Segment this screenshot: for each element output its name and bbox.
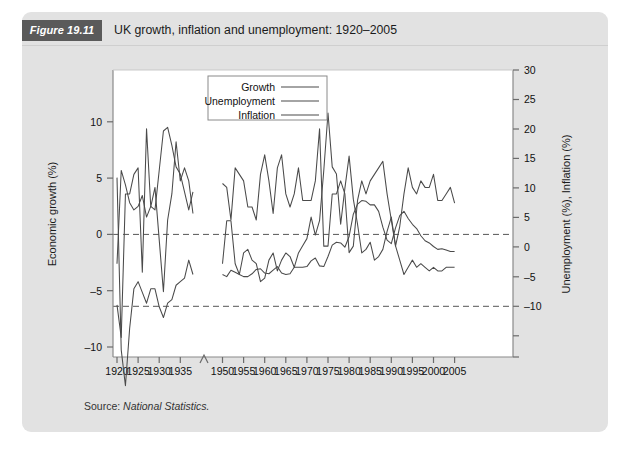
x-tick-1995: 1995 (401, 365, 425, 377)
right-tick-neg10: –10 (524, 300, 542, 312)
right-tick-neg5: –5 (524, 271, 536, 283)
line-chart-svg: 10 5 0 –5 –10 Economic growth (%) (22, 42, 608, 392)
x-tick-1990: 1990 (380, 365, 404, 377)
right-tick-15: 15 (524, 152, 536, 164)
legend-label-growth: Growth (241, 81, 275, 93)
chart-legend: Growth Unemployment Inflation (204, 76, 327, 121)
x-tick-1920: 1920 (105, 365, 129, 377)
figure-title: UK growth, inflation and unemployment: 1… (114, 20, 397, 41)
left-tick-10: 10 (90, 116, 102, 128)
x-tick-1980: 1980 (337, 365, 361, 377)
x-tick-2000: 2000 (422, 365, 446, 377)
chart-plot-area: 10 5 0 –5 –10 Economic growth (%) (22, 42, 608, 392)
right-tick-30: 30 (524, 64, 536, 76)
screenshot-page: Figure 19.11 UK growth, inflation and un… (0, 0, 630, 454)
x-tick-1960: 1960 (253, 365, 277, 377)
left-tick-5: 5 (96, 172, 102, 184)
x-tick-1935: 1935 (169, 365, 193, 377)
left-tick-neg5: –5 (90, 285, 102, 297)
right-axis-ticks: 30 25 20 15 10 5 0 –5 –10 (513, 64, 542, 357)
left-tick-neg10: –10 (84, 341, 102, 353)
x-tick-1955: 1955 (232, 365, 256, 377)
right-axis-title: Unemployment (%), Inflation (%) (560, 135, 572, 294)
figure-card: Figure 19.11 UK growth, inflation and un… (22, 12, 608, 432)
left-axis-title: Economic growth (%) (46, 162, 58, 267)
x-tick-1985: 1985 (359, 365, 383, 377)
source-prefix: Source: (84, 400, 120, 412)
x-tick-1925: 1925 (126, 365, 150, 377)
right-tick-0: 0 (524, 241, 530, 253)
legend-label-inflation: Inflation (238, 109, 275, 121)
figure-number-badge: Figure 19.11 (22, 20, 102, 41)
x-tick-1950: 1950 (211, 365, 235, 377)
right-tick-20: 20 (524, 123, 536, 135)
x-tick-1930: 1930 (148, 365, 172, 377)
source-note: Source: National Statistics. (84, 400, 209, 412)
x-axis-ticks: 1920 1925 1930 1935 1950 1955 1960 1965 … (105, 357, 466, 377)
legend-label-unemployment: Unemployment (204, 95, 275, 107)
x-tick-2005: 2005 (443, 365, 467, 377)
x-tick-1970: 1970 (295, 365, 319, 377)
left-axis-ticks: 10 5 0 –5 –10 (84, 116, 113, 353)
left-tick-0: 0 (96, 228, 102, 240)
x-tick-1965: 1965 (274, 365, 298, 377)
right-tick-25: 25 (524, 93, 536, 105)
x-tick-1975: 1975 (316, 365, 340, 377)
right-tick-10: 10 (524, 182, 536, 194)
right-tick-5: 5 (524, 211, 530, 223)
source-name: National Statistics. (123, 400, 209, 412)
